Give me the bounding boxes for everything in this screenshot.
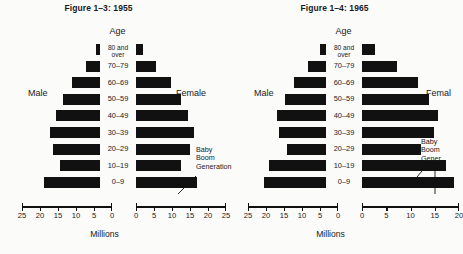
annotation-leader-lines-1965	[230, 0, 459, 254]
annotation-leader-line-1955	[0, 0, 229, 254]
figure-panel-1955: Figure 1–3: 1955 Age Male Female 80 ando…	[0, 0, 229, 254]
figure-panel-1965: Figure 1–4: 1965 Age Male Femal 80 andov…	[230, 0, 459, 254]
